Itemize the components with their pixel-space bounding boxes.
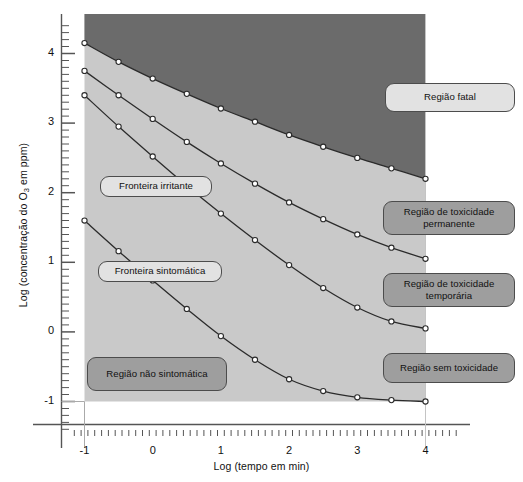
data-point-marker — [423, 176, 428, 181]
data-point-marker — [423, 256, 428, 261]
data-point-marker — [287, 262, 292, 267]
y-axis-title-pre: Log (concentração do O — [17, 192, 29, 307]
x-tick-label: 0 — [137, 444, 169, 456]
data-point-marker — [287, 132, 292, 137]
data-point-marker — [150, 76, 155, 81]
y-axis-title-subscript: 3 — [22, 188, 31, 192]
data-point-marker — [184, 306, 189, 311]
callout-regiao-nao-sintomatica: Região não sintomática — [87, 357, 227, 391]
y-axis-title: Log (concentração do O3 em ppm) — [17, 115, 31, 335]
x-axis-title: Log (tempo em min) — [0, 460, 523, 472]
x-tick-label: 4 — [410, 444, 442, 456]
data-point-marker — [116, 93, 121, 98]
data-point-marker — [116, 249, 121, 254]
callout-line-1: Região de toxicidade — [404, 278, 495, 291]
data-point-marker — [321, 217, 326, 222]
y-tick-label: -1 — [24, 394, 54, 406]
data-point-marker — [218, 106, 223, 111]
data-point-marker — [150, 154, 155, 159]
data-point-marker — [389, 398, 394, 403]
data-point-marker — [355, 232, 360, 237]
data-point-marker — [355, 155, 360, 160]
y-tick-label: 4 — [24, 46, 54, 58]
callout-fronteira-irritante: Fronteira irritante — [100, 176, 212, 197]
data-point-marker — [355, 395, 360, 400]
callout-line-1: Região de toxicidade — [404, 206, 495, 219]
x-tick-label: 1 — [205, 444, 237, 456]
data-point-marker — [218, 161, 223, 166]
x-tick-label: -1 — [69, 444, 101, 456]
data-point-marker — [82, 68, 87, 73]
data-point-marker — [389, 319, 394, 324]
callout-line-2: temporária — [426, 290, 472, 303]
data-point-marker — [252, 119, 257, 124]
data-point-marker — [287, 377, 292, 382]
data-point-marker — [218, 333, 223, 338]
data-point-marker — [389, 245, 394, 250]
callout-regiao-toxicidade-permanente: Região de toxicidade permanente — [383, 201, 515, 235]
data-point-marker — [287, 200, 292, 205]
data-point-marker — [321, 144, 326, 149]
data-point-marker — [252, 181, 257, 186]
y-axis-title-post: em ppm) — [17, 143, 29, 188]
data-point-marker — [321, 388, 326, 393]
chart-root: -101234 -101234 Log (tempo em min) Log (… — [0, 0, 523, 482]
data-point-marker — [116, 59, 121, 64]
data-point-marker — [252, 237, 257, 242]
data-point-marker — [423, 326, 428, 331]
callout-fronteira-sintomatica: Fronteira sintomática — [98, 261, 222, 282]
data-point-marker — [389, 166, 394, 171]
data-point-marker — [321, 285, 326, 290]
data-point-marker — [82, 218, 87, 223]
data-point-marker — [150, 116, 155, 121]
data-point-marker — [218, 211, 223, 216]
callout-regiao-toxicidade-temporaria: Região de toxicidade temporária — [383, 273, 515, 307]
data-point-marker — [423, 399, 428, 404]
data-point-marker — [82, 40, 87, 45]
callout-line-2: permanente — [423, 218, 475, 231]
data-point-marker — [252, 357, 257, 362]
x-tick-label: 2 — [273, 444, 305, 456]
callout-regiao-fatal: Região fatal — [385, 83, 515, 112]
data-point-marker — [355, 305, 360, 310]
callout-regiao-sem-toxicidade: Região sem toxicidade — [383, 353, 515, 383]
data-point-marker — [184, 91, 189, 96]
data-point-marker — [116, 124, 121, 129]
x-tick-label: 3 — [341, 444, 373, 456]
chart-canvas — [0, 0, 523, 482]
data-point-marker — [184, 139, 189, 144]
data-point-marker — [82, 93, 87, 98]
